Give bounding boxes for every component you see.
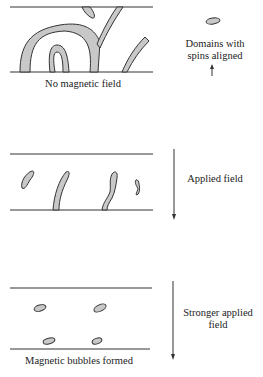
caption-bubbles-formed: Magnetic bubbles formed — [18, 355, 140, 367]
label-stronger-field-2: field — [178, 319, 258, 331]
domain-top-drop — [82, 7, 94, 18]
bubble-1 — [33, 304, 46, 313]
aligned-domain-icon — [206, 17, 221, 25]
domain-stripe-4 — [135, 180, 139, 195]
panel-applied-field — [10, 149, 176, 220]
domain-right-diagonal — [122, 37, 149, 72]
label-stronger-field-1: Stronger applied — [178, 307, 258, 319]
caption-no-field: No magnetic field — [38, 78, 128, 90]
bubble-2 — [93, 302, 107, 313]
panel-stronger-field — [10, 281, 175, 360]
domain-stripe-3 — [102, 172, 117, 210]
domain-stripe-1 — [22, 171, 34, 188]
label-domains-aligned-2: spins aligned — [180, 50, 250, 62]
domain-stripe-2 — [53, 171, 69, 210]
domain-inner-arch — [49, 45, 69, 72]
label-applied-field: Applied field — [180, 173, 250, 185]
domain-branch — [97, 7, 123, 48]
bubble-3 — [42, 337, 55, 346]
label-domains-aligned-1: Domains with — [180, 38, 250, 50]
bubble-4 — [91, 337, 102, 346]
